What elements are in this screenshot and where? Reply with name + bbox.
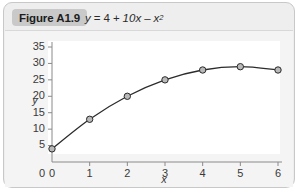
equation-operator-plus: + [110,12,123,24]
data-point-marker [199,67,205,73]
x-axis-title: x [160,173,167,185]
x-tick-label: 0 [49,167,55,179]
data-point-marker [275,67,281,73]
data-point-marker [237,64,243,70]
y-tick-label: 10 [33,122,45,134]
data-point-marker [49,146,55,152]
x-tick-label: 1 [87,167,93,179]
plot-card: 51015202530350 0123456 y x [5,30,293,187]
y-origin-label: 0 [39,167,45,179]
plot-area [48,41,280,154]
data-point-marker [86,116,92,122]
equation-term-linear: 10x [123,12,142,24]
equation-equals: = [91,12,104,24]
y-tick-label: 35 [33,40,45,52]
y-tick-label: 5 [39,138,45,150]
y-tick-label: 25 [33,73,45,85]
figure-equation: y = 4 + 10x – x2 [85,9,163,26]
x-tick-label: 6 [275,167,281,179]
figure-number-badge: Figure A1.9 [12,9,87,26]
figure-number-label: Figure A1.9 [19,12,80,24]
chart-plot: 51015202530350 0123456 y x [5,31,293,187]
data-point-marker [162,77,168,83]
equation-operator-minus: – [141,12,153,24]
x-tick-label: 4 [200,167,206,179]
y-tick-label: 30 [33,56,45,68]
x-tick-label: 5 [237,167,243,179]
figure-header: Figure A1.9 y = 4 + 10x – x2 [4,3,294,31]
y-tick-label: 15 [33,106,45,118]
data-point-marker [124,93,130,99]
x-tick-label: 2 [124,167,130,179]
figure-panel: Figure A1.9 y = 4 + 10x – x2 51015202530… [3,2,295,188]
